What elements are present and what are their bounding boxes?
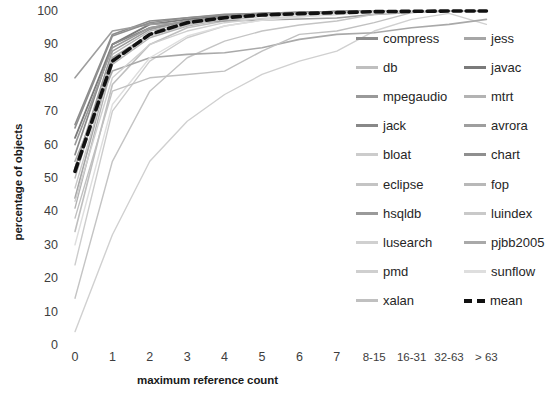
y-axis-tick-label: 100 — [14, 5, 58, 17]
legend-item-db[interactable]: db — [356, 59, 397, 75]
legend-item-sunflow[interactable]: sunflow — [464, 264, 535, 280]
x-axis-tick-label: 4 — [221, 350, 228, 364]
legend-swatch-icon — [356, 299, 378, 302]
plot-area — [66, 11, 349, 345]
legend-label: pjbb2005 — [491, 235, 545, 250]
legend-item-compress[interactable]: compress — [356, 30, 439, 46]
legend-swatch-icon — [356, 95, 378, 98]
x-axis-tick-label: 3 — [184, 350, 191, 364]
x-axis-tick-label: 6 — [296, 350, 303, 364]
x-axis-tick-label: 8-15 — [363, 350, 386, 364]
legend-label: compress — [383, 31, 439, 46]
y-axis-tick-label: 40 — [14, 205, 58, 217]
legend-item-pmd[interactable]: pmd — [356, 264, 408, 280]
legend-swatch-icon — [356, 212, 378, 215]
legend-label: sunflow — [491, 264, 535, 279]
legend-swatch-icon — [356, 66, 378, 69]
legend-label: db — [383, 60, 397, 75]
legend-item-avrora[interactable]: avrora — [464, 118, 528, 134]
legend-swatch-icon — [464, 66, 486, 69]
legend-item-mpegaudio[interactable]: mpegaudio — [356, 88, 447, 104]
legend-swatch-icon — [464, 37, 486, 40]
legend-item-luindex[interactable]: luindex — [464, 205, 532, 221]
legend-swatch-icon — [464, 270, 486, 273]
legend-swatch-icon — [464, 95, 486, 98]
legend-label: eclipse — [383, 177, 423, 192]
y-axis-tick-label: 20 — [14, 272, 58, 284]
legend-item-xalan[interactable]: xalan — [356, 293, 414, 309]
legend-label: lusearch — [383, 235, 432, 250]
legend-item-hsqldb[interactable]: hsqldb — [356, 205, 421, 221]
x-axis-tick-label: 16-31 — [397, 350, 426, 364]
legend-label: avrora — [491, 118, 528, 133]
legend-label: mean — [490, 293, 523, 308]
legend-swatch-icon — [356, 241, 378, 244]
legend-swatch-icon — [356, 124, 378, 127]
y-axis-tick-label: 70 — [14, 105, 58, 117]
x-axis-tick-label: 0 — [72, 350, 79, 364]
x-axis-tick-label: 7 — [333, 350, 340, 364]
y-axis-tick-label: 30 — [14, 239, 58, 251]
legend-swatch-icon — [464, 212, 486, 215]
y-axis-tick-label: 80 — [14, 72, 58, 84]
legend-item-mean[interactable]: mean — [464, 293, 523, 309]
legend-swatch-icon — [356, 183, 378, 186]
legend-item-pjbb2005[interactable]: pjbb2005 — [464, 234, 545, 250]
legend-label: mpegaudio — [383, 89, 447, 104]
legend-item-fop[interactable]: fop — [464, 176, 509, 192]
legend-item-chart[interactable]: chart — [464, 147, 520, 163]
y-axis-tick-label: 60 — [14, 139, 58, 151]
legend-item-bloat[interactable]: bloat — [356, 147, 411, 163]
legend-item-jack[interactable]: jack — [356, 118, 406, 134]
legend-swatch-icon — [464, 124, 486, 127]
x-axis-tick-labels: 012345678-1516-3132-63> 63 — [0, 350, 558, 370]
legend-item-eclipse[interactable]: eclipse — [356, 176, 423, 192]
legend-label: luindex — [491, 206, 532, 221]
legend-label: hsqldb — [383, 206, 421, 221]
y-axis-tick-labels: 0102030405060708090100 — [14, 0, 58, 398]
chart-figure: percentage of objects 010203040506070809… — [0, 0, 558, 398]
legend-label: javac — [491, 60, 521, 75]
x-axis-tick-label: > 63 — [475, 350, 498, 364]
legend-swatch-icon — [464, 153, 486, 156]
legend-label: jess — [491, 31, 514, 46]
legend-item-jess[interactable]: jess — [464, 30, 514, 46]
legend-swatch-icon — [464, 241, 486, 244]
y-axis-tick-label: 90 — [14, 38, 58, 50]
legend-swatch-icon — [464, 183, 486, 186]
legend-item-mtrt[interactable]: mtrt — [464, 88, 513, 104]
x-axis-tick-label: 1 — [109, 350, 116, 364]
legend-item-lusearch[interactable]: lusearch — [356, 234, 432, 250]
x-axis-title: maximum reference count — [66, 374, 349, 386]
legend-swatch-icon — [356, 153, 378, 156]
legend-swatch-icon — [356, 270, 378, 273]
legend-swatch-icon — [464, 299, 485, 303]
plot-lines — [66, 11, 349, 345]
legend-label: jack — [383, 118, 406, 133]
y-axis-tick-label: 10 — [14, 306, 58, 318]
legend-label: bloat — [383, 147, 411, 162]
chart-legend: compressdbmpegaudiojackbloateclipsehsqld… — [356, 30, 556, 330]
y-axis-tick-label: 50 — [14, 172, 58, 184]
legend-item-javac[interactable]: javac — [464, 59, 521, 75]
legend-label: mtrt — [491, 89, 513, 104]
legend-label: chart — [491, 147, 520, 162]
x-axis-tick-label: 2 — [146, 350, 153, 364]
legend-swatch-icon — [356, 37, 378, 40]
legend-label: fop — [491, 177, 509, 192]
legend-label: xalan — [383, 293, 414, 308]
x-axis-tick-label: 5 — [259, 350, 266, 364]
legend-label: pmd — [383, 264, 408, 279]
x-axis-tick-label: 32-63 — [434, 350, 463, 364]
